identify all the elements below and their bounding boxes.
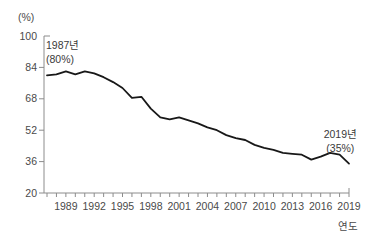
y-axis-unit-label: (%) [18,11,34,23]
y-tick-label: 84 [25,61,37,73]
x-tick-label: 1992 [83,200,107,212]
x-tick-label: 1995 [111,200,135,212]
annotation-end-point: 2019년 (35%) [324,128,357,155]
annotation-start-point: 1987년 (80%) [46,39,79,66]
y-tick-label: 20 [25,187,37,199]
line-chart-plot: 2036526884100198919921995199820012004200… [0,0,374,246]
x-tick-label: 2004 [196,200,220,212]
x-tick-label: 2019 [337,200,361,212]
chart-canvas: 2036526884100198919921995199820012004200… [0,0,374,246]
annotation-start-value: (80%) [46,53,79,67]
axis-ticks [39,67,349,197]
y-tick-label: 36 [25,155,37,167]
x-axis-title: 연도 [338,218,358,233]
x-tick-label: 2010 [252,200,276,212]
y-tick-label: 68 [25,92,37,104]
y-tick-label: 52 [25,124,37,136]
x-tick-label: 2013 [281,200,305,212]
annotation-start-year: 1987년 [46,39,79,53]
x-tick-label: 1998 [139,200,163,212]
y-tick-label: 100 [19,30,37,42]
data-line-series [47,71,349,163]
x-tick-label: 2016 [309,200,333,212]
x-tick-label: 2007 [224,200,248,212]
annotation-end-value: (35%) [324,142,357,156]
x-tick-label: 2001 [167,200,191,212]
x-tick-label: 1989 [54,200,78,212]
annotation-end-year: 2019년 [324,128,357,142]
axes-frame [44,36,349,193]
